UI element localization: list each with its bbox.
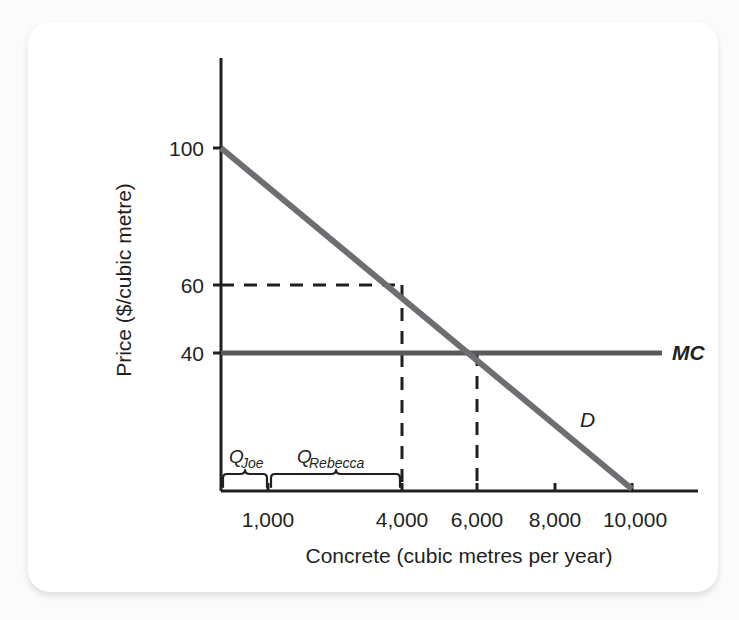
x-tick-label-6000: 6,000 (451, 508, 504, 531)
x-tick-label-10000: 10,000 (603, 508, 667, 531)
x-axis-title: Concrete (cubic metres per year) (306, 544, 613, 567)
y-axis-title: Price ($/cubic metre) (112, 183, 135, 377)
demand-curve (221, 148, 632, 489)
chart-axes (221, 58, 698, 491)
concrete-demand-chart: MC D 100 60 40 1,000 4,000 6,000 8,000 1… (0, 0, 739, 620)
quantity-braces (223, 470, 400, 487)
q-joe-subscript: Joe (240, 455, 264, 471)
series-label-mc: MC (672, 341, 705, 364)
q-rebecca-subscript: Rebecca (309, 455, 364, 471)
y-tick-label-40: 40 (181, 342, 204, 365)
x-tick-label-8000: 8,000 (529, 508, 582, 531)
y-tick-label-60: 60 (181, 274, 204, 297)
y-tick-label-100: 100 (169, 137, 204, 160)
series-label-d: D (580, 408, 595, 431)
figure-page: MC D 100 60 40 1,000 4,000 6,000 8,000 1… (0, 0, 739, 620)
q-rebecca-label-group: Q Rebecca (297, 446, 364, 471)
chart-series (221, 148, 662, 489)
q-joe-label-group: Q Joe (229, 446, 264, 471)
x-tick-label-1000: 1,000 (242, 508, 295, 531)
q-joe-brace (223, 470, 267, 487)
x-tick-label-4000: 4,000 (376, 508, 429, 531)
q-rebecca-brace (271, 470, 400, 487)
